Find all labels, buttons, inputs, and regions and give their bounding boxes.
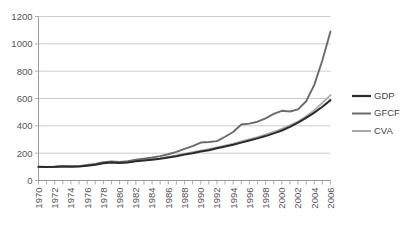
y-axis-tick-label: 1200 — [11, 11, 32, 22]
x-axis-tick-label: 1990 — [195, 188, 206, 209]
x-axis-tick-label: 1974 — [65, 188, 76, 209]
legend-label-gdp: GDP — [374, 90, 395, 101]
x-axis-tick-label: 1976 — [82, 188, 93, 209]
legend: GDPGFCFCVA — [352, 90, 400, 136]
x-axis-tick-label: 2000 — [276, 188, 287, 209]
x-axis-tick-label: 1988 — [179, 188, 190, 209]
x-axis-tick-label: 2006 — [325, 188, 336, 209]
x-axis-tick-label: 1982 — [130, 188, 141, 209]
gridlines-group — [39, 17, 331, 181]
y-axis-tick-labels: 020040060080010001200 — [11, 11, 32, 186]
series-line-cva — [39, 95, 331, 167]
legend-label-gfcf: GFCF — [374, 107, 400, 118]
x-axis-tick-label: 2004 — [309, 188, 320, 209]
y-axis-tick-label: 0 — [27, 175, 32, 186]
x-axis-group — [39, 181, 331, 185]
x-axis-tick-label: 1980 — [114, 188, 125, 209]
y-axis-tick-label: 400 — [17, 120, 33, 131]
series-line-gdp — [39, 100, 331, 167]
x-axis-tick-label: 1994 — [228, 188, 239, 209]
y-axis-group — [35, 17, 39, 181]
x-axis-tick-label: 1992 — [211, 188, 222, 209]
x-axis-tick-label: 1970 — [33, 188, 44, 209]
y-axis-tick-label: 1000 — [11, 38, 32, 49]
legend-label-cva: CVA — [374, 125, 393, 136]
series-line-gfcf — [39, 32, 331, 168]
x-axis-tick-label: 1986 — [163, 188, 174, 209]
x-axis-tick-label: 1996 — [244, 188, 255, 209]
x-axis-tick-label: 1972 — [49, 188, 60, 209]
chart-container: 020040060080010001200 197019721974197619… — [0, 0, 404, 229]
x-axis-tick-label: 1984 — [146, 188, 157, 209]
x-axis-tick-labels: 1970197219741976197819801982198419861988… — [33, 188, 336, 209]
series-lines-group — [39, 32, 331, 168]
x-axis-tick-label: 1978 — [98, 188, 109, 209]
y-axis-tick-label: 600 — [17, 93, 33, 104]
x-axis-tick-label: 2002 — [292, 188, 303, 209]
y-axis-tick-label: 200 — [17, 148, 33, 159]
y-axis-tick-label: 800 — [17, 66, 33, 77]
x-axis-tick-label: 1998 — [260, 188, 271, 209]
line-chart: 020040060080010001200 197019721974197619… — [0, 0, 404, 229]
